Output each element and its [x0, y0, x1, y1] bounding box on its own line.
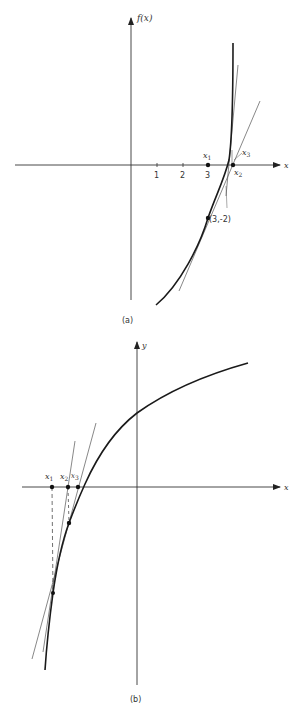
fig-b-curve-point-2 — [67, 521, 71, 525]
fig-b-point-x1 — [50, 485, 54, 489]
fig-a-x-axis-label: x — [284, 161, 289, 170]
tick-label-2: 2 — [180, 171, 185, 180]
fig-b-label-x3: x3 — [71, 472, 79, 481]
figure-a: f(x) x 1 2 3 x1 x2 x3 — [15, 13, 289, 325]
fig-a-annotation: (3,-2) — [209, 215, 231, 224]
fig-a-point-x1 — [206, 163, 210, 167]
fig-a-label-x1: x1 — [203, 151, 211, 161]
tick-label-1: 1 — [154, 171, 159, 180]
fig-a-tangent-1 — [179, 101, 260, 291]
fig-b-caption: (b) — [130, 695, 141, 704]
fig-b-curve — [45, 363, 248, 670]
fig-b-point-x3 — [76, 485, 80, 489]
fig-b-dashed-x2 — [68, 487, 69, 523]
fig-b-label-x1: x1 — [45, 472, 53, 482]
newton-method-diagram: f(x) x 1 2 3 x1 x2 x3 — [0, 0, 295, 712]
fig-a-y-axis-label: f(x) — [136, 13, 153, 23]
fig-b-curve-point-1 — [51, 591, 55, 595]
fig-b-y-axis-label: y — [141, 341, 147, 350]
fig-a-label-x3: x3 — [242, 148, 251, 158]
fig-a-point-x2 — [231, 163, 235, 167]
fig-b-dashed-x1 — [52, 487, 53, 593]
fig-b-label-x2: x2 — [60, 472, 69, 482]
fig-b-point-x2 — [66, 485, 70, 489]
fig-a-x3-leader — [234, 153, 242, 160]
figure-b: y x x1 x2 x3 (b) — [22, 341, 289, 704]
fig-a-curve — [156, 43, 233, 305]
fig-b-x-axis-label: x — [284, 483, 289, 492]
tick-label-3: 3 — [205, 171, 210, 180]
fig-a-label-x2: x2 — [234, 168, 243, 178]
fig-a-caption: (a) — [122, 316, 133, 325]
